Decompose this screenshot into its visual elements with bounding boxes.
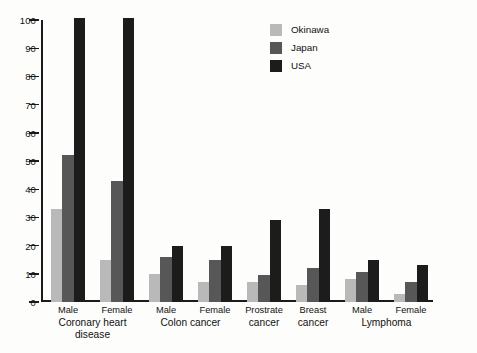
x-axis-group-label: Female [395, 305, 426, 315]
bar-japan [307, 268, 319, 302]
bar-okinawa [296, 285, 308, 302]
bar-group [345, 20, 380, 302]
x-axis-category-label: cancer [249, 317, 280, 329]
bar-usa [74, 18, 86, 302]
bar-okinawa [100, 260, 112, 302]
chart-legend: OkinawaJapanUSA [270, 22, 329, 76]
bar-group [100, 20, 135, 302]
bar-okinawa [51, 209, 63, 302]
bar-japan [405, 282, 417, 302]
bar-group [394, 20, 429, 302]
x-axis-category-label-line: Lymphoma [361, 317, 411, 329]
y-axis-tick-label: 20 [25, 240, 36, 251]
x-axis-group-label: Male [156, 305, 176, 315]
y-axis-tick-label: 70 [25, 99, 36, 110]
x-axis-category-label-line: cancer [249, 317, 280, 329]
x-axis-group-label: Female [101, 305, 132, 315]
x-axis-category-label-line: Colon cancer [160, 317, 220, 329]
bar-usa [417, 265, 429, 302]
x-axis-category-label-line: Coronary heart [59, 317, 127, 329]
x-axis-category-label-line: cancer [298, 317, 329, 329]
bar-usa [123, 18, 135, 302]
x-axis-group-label: Male [58, 305, 78, 315]
legend-swatch-usa [270, 60, 282, 72]
x-axis-group-label: Breast [300, 305, 327, 315]
bar-usa [221, 246, 233, 302]
figure: 0102030405060708090100 MaleFemaleMaleFem… [0, 0, 477, 353]
bar-group [198, 20, 233, 302]
x-axis-category-label: cancer [298, 317, 329, 329]
legend-label: USA [291, 60, 311, 71]
bar-japan [356, 272, 368, 302]
y-axis-tick-label: 40 [25, 184, 36, 195]
plot-area [41, 20, 433, 302]
y-axis-tick-label: 90 [25, 43, 36, 54]
bar-usa [368, 260, 380, 302]
y-axis-tick-label: 100 [20, 15, 36, 26]
bar-japan [160, 257, 172, 302]
y-axis-tick-label: 0 [31, 297, 36, 308]
legend-label: Okinawa [291, 24, 329, 35]
x-axis-category-label: Colon cancer [160, 317, 220, 329]
bar-japan [62, 155, 74, 302]
bar-okinawa [149, 274, 161, 302]
legend-item: Okinawa [270, 22, 329, 38]
y-axis-tick-label: 80 [25, 71, 36, 82]
x-axis-category-label-line: disease [59, 329, 127, 341]
legend-swatch-okinawa [270, 24, 282, 36]
bar-group [51, 20, 86, 302]
bar-group [149, 20, 184, 302]
bar-japan [209, 260, 221, 302]
bar-japan [111, 181, 123, 302]
bar-usa [319, 209, 331, 302]
bar-okinawa [394, 294, 406, 302]
bar-usa [172, 246, 184, 302]
legend-label: Japan [291, 42, 318, 53]
legend-item: Japan [270, 40, 329, 56]
y-axis-tick-label: 30 [25, 212, 36, 223]
y-axis-tick-label: 60 [25, 127, 36, 138]
legend-item: USA [270, 58, 329, 74]
x-axis-category-label: Lymphoma [361, 317, 411, 329]
x-axis-group-label: Male [352, 305, 372, 315]
y-axis-tick-label: 50 [25, 156, 36, 167]
bar-okinawa [247, 282, 259, 302]
bar-okinawa [345, 279, 357, 302]
x-axis-group-label: Female [199, 305, 230, 315]
bar-japan [258, 275, 270, 302]
bar-usa [270, 220, 282, 302]
x-axis-category-label: Coronary heartdisease [59, 317, 127, 340]
y-axis-tick-label: 10 [25, 268, 36, 279]
x-axis-group-label: Prostrate [245, 305, 283, 315]
bar-okinawa [198, 282, 210, 302]
legend-swatch-japan [270, 42, 282, 54]
